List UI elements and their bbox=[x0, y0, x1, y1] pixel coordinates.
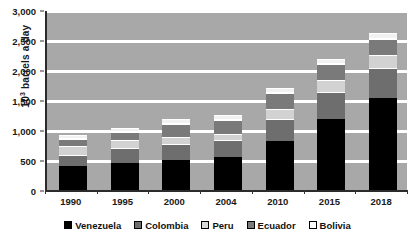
legend-item-peru[interactable]: Peru bbox=[201, 220, 233, 231]
y-axis-tickmark-0 bbox=[40, 191, 44, 192]
legend-swatch-peru-icon bbox=[201, 221, 209, 229]
x-axis-tickmark-6 bbox=[355, 190, 356, 194]
bar-segment-venezuela-2018[interactable] bbox=[369, 98, 397, 191]
x-axis-tick-1990: 1990 bbox=[60, 196, 81, 207]
y-axis-tick-500: 500 bbox=[2, 156, 36, 167]
legend-label-peru: Peru bbox=[212, 220, 233, 231]
x-axis-line bbox=[45, 190, 407, 192]
x-axis-tick-2018: 2018 bbox=[371, 196, 392, 207]
x-axis-tick-2000: 2000 bbox=[164, 196, 185, 207]
bar-segment-ecuador-2010[interactable] bbox=[266, 93, 294, 109]
x-axis-tick-2010: 2010 bbox=[267, 196, 288, 207]
legend-item-bolivia[interactable]: Bolivia bbox=[309, 220, 351, 231]
bar-segment-peru-1990[interactable] bbox=[59, 146, 87, 155]
gridline-3000 bbox=[47, 10, 407, 13]
legend-item-ecuador[interactable]: Ecuador bbox=[247, 220, 296, 231]
bar-stack-2010[interactable] bbox=[266, 88, 294, 191]
bar-stack-2015[interactable] bbox=[317, 59, 345, 191]
y-axis-tick-labels: 05001,0001,5002,0002,5003,000 bbox=[2, 0, 36, 236]
plot-inner bbox=[47, 11, 407, 191]
bar-segment-ecuador-2000[interactable] bbox=[162, 124, 190, 137]
x-axis-tick-2004: 2004 bbox=[215, 196, 236, 207]
bar-segment-colombia-1990[interactable] bbox=[59, 155, 87, 166]
legend-label-colombia: Colombia bbox=[145, 220, 188, 231]
bar-segment-ecuador-2004[interactable] bbox=[214, 120, 242, 134]
bar-stack-2000[interactable] bbox=[162, 119, 190, 191]
legend-label-bolivia: Bolivia bbox=[320, 220, 351, 231]
bar-segment-ecuador-1995[interactable] bbox=[111, 132, 139, 140]
bar-segment-venezuela-2015[interactable] bbox=[317, 119, 345, 191]
y-axis-tick-1000: 1,000 bbox=[2, 126, 36, 137]
legend-swatch-bolivia-icon bbox=[309, 221, 317, 229]
bar-segment-colombia-2010[interactable] bbox=[266, 119, 294, 141]
bar-segment-peru-2010[interactable] bbox=[266, 109, 294, 119]
y-axis-tickmark-1500 bbox=[40, 101, 44, 102]
bar-segment-colombia-2000[interactable] bbox=[162, 144, 190, 161]
bar-stack-2004[interactable] bbox=[214, 115, 242, 191]
legend-swatch-colombia-icon bbox=[134, 221, 142, 229]
gridline-2500 bbox=[47, 40, 407, 43]
bar-segment-colombia-2018[interactable] bbox=[369, 68, 397, 98]
bar-segment-peru-2018[interactable] bbox=[369, 55, 397, 68]
y-axis-tickmark-500 bbox=[40, 161, 44, 162]
legend-swatch-ecuador-icon bbox=[247, 221, 255, 229]
legend-swatch-venezuela-icon bbox=[64, 221, 72, 229]
bar-segment-peru-2004[interactable] bbox=[214, 134, 242, 141]
y-axis-tick-0: 0 bbox=[2, 186, 36, 197]
legend-item-colombia[interactable]: Colombia bbox=[134, 220, 188, 231]
bar-segment-peru-2015[interactable] bbox=[317, 80, 345, 92]
y-axis-tickmark-1000 bbox=[40, 131, 44, 132]
y-axis-tick-3000: 3,000 bbox=[2, 6, 36, 17]
plot-area bbox=[45, 11, 407, 191]
y-axis-tickmark-2000 bbox=[40, 71, 44, 72]
bar-segment-ecuador-2015[interactable] bbox=[317, 64, 345, 80]
y-axis-tickmark-2500 bbox=[40, 41, 44, 42]
bar-stack-1990[interactable] bbox=[59, 135, 87, 191]
x-axis-tickmark-1 bbox=[97, 190, 98, 194]
x-axis-tickmark-5 bbox=[304, 190, 305, 194]
bar-segment-venezuela-2010[interactable] bbox=[266, 141, 294, 191]
bar-segment-peru-2000[interactable] bbox=[162, 137, 190, 144]
y-axis-tick-2500: 2,500 bbox=[2, 36, 36, 47]
bar-segment-peru-1995[interactable] bbox=[111, 140, 139, 148]
y-axis-tickmark-3000 bbox=[40, 11, 44, 12]
chart-legend: VenezuelaColombiaPeruEcuadorBolivia bbox=[0, 216, 415, 234]
stacked-bar-chart: 103 barrels a day 05001,0001,5002,0002,5… bbox=[0, 0, 415, 236]
bar-segment-venezuela-2004[interactable] bbox=[214, 157, 242, 191]
legend-label-venezuela: Venezuela bbox=[75, 220, 121, 231]
legend-label-ecuador: Ecuador bbox=[258, 220, 296, 231]
bar-segment-venezuela-1995[interactable] bbox=[111, 163, 139, 191]
bar-segment-colombia-2015[interactable] bbox=[317, 92, 345, 119]
legend-item-venezuela[interactable]: Venezuela bbox=[64, 220, 121, 231]
x-axis-tickmark-0 bbox=[45, 190, 46, 194]
gridline-2000 bbox=[47, 70, 407, 73]
x-axis-tickmark-7 bbox=[407, 190, 408, 194]
bar-segment-venezuela-2000[interactable] bbox=[162, 160, 190, 191]
x-axis-tickmark-2 bbox=[148, 190, 149, 194]
y-axis-tick-1500: 1,500 bbox=[2, 96, 36, 107]
x-axis-tick-2015: 2015 bbox=[319, 196, 340, 207]
bar-segment-venezuela-1990[interactable] bbox=[59, 166, 87, 191]
bar-segment-colombia-1995[interactable] bbox=[111, 148, 139, 163]
gridline-1500 bbox=[47, 100, 407, 103]
bar-segment-ecuador-2018[interactable] bbox=[369, 39, 397, 55]
x-axis-tickmark-3 bbox=[200, 190, 201, 194]
bar-stack-2018[interactable] bbox=[369, 33, 397, 191]
y-axis-tick-2000: 2,000 bbox=[2, 66, 36, 77]
x-axis-tick-1995: 1995 bbox=[112, 196, 133, 207]
bar-stack-1995[interactable] bbox=[111, 128, 139, 191]
x-axis-tickmark-4 bbox=[252, 190, 253, 194]
bar-segment-colombia-2004[interactable] bbox=[214, 140, 242, 157]
